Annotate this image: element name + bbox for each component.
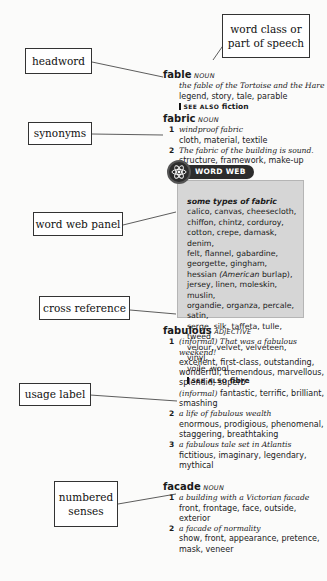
example-sentence: (informal) That was a fabulous weekend! [179, 337, 327, 358]
example-sentence: a fabulous tale set in Atlantis [179, 440, 327, 450]
callout-numbered-senses: numbered senses [54, 481, 118, 527]
example-sentence: The fabric of the building is sound. [179, 146, 327, 156]
word-web-line: calico, canvas, cheesecloth, [187, 207, 301, 217]
part-of-speech: noun [194, 72, 215, 80]
headword: fabric [163, 113, 196, 124]
synonyms: enormous, prodigious, phenomenal, stagge… [179, 420, 327, 441]
cross-reference[interactable]: see also fiction [163, 102, 327, 112]
usage-label: (informal) [179, 337, 217, 346]
entry-facade: facade noun 1 a building with a Victoria… [163, 482, 327, 555]
cross-reference-marker-icon [179, 103, 181, 110]
example-sentence: windproof fabric [179, 125, 327, 135]
synonyms: structure, framework, make-up [179, 156, 327, 166]
callout-label: usage label [25, 387, 86, 401]
see-also-link[interactable]: fiction [222, 102, 249, 111]
sense: 1 (informal) That was a fabulous weekend… [163, 337, 327, 409]
word-web-panel: some types of fabric calico, canvas, che… [177, 180, 304, 318]
entry-fable: fable noun the fable of the Tortoise and… [163, 70, 327, 112]
synonyms: fictitious, imaginary, legendary, mythic… [179, 451, 327, 472]
headword: fable [163, 69, 191, 80]
example-sentence: the fable of the Tortoise and the Hare [163, 81, 327, 91]
usage-label: (informal) [179, 389, 217, 398]
headword: fabulous [163, 325, 212, 336]
example-sentence: a facade of normality [179, 524, 327, 534]
sense-number: 3 [169, 440, 174, 450]
part-of-speech: adjective [214, 328, 251, 336]
part-of-speech: noun [203, 484, 224, 492]
word-web-term: burlap), [262, 270, 293, 279]
callout-headword: headword [25, 48, 92, 74]
sense-number: 1 [169, 493, 174, 503]
word-web-line: felt, flannel, gabardine, [187, 249, 301, 259]
word-web-line: chiffon, chintz, corduroy, [187, 218, 301, 228]
sense: 2 a life of fabulous wealth enormous, pr… [163, 409, 327, 440]
callout-label: headword [32, 54, 85, 68]
example-sentence: a life of fabulous wealth [179, 409, 327, 419]
usage-label: (American [219, 270, 259, 279]
callout-label: senses [68, 504, 103, 518]
callout-label: synonyms [34, 126, 86, 140]
synonyms: front, frontage, face, outside, exterior [179, 504, 327, 525]
sense: 2 a facade of normality show, front, app… [163, 524, 327, 555]
word-web-term: hessian [187, 270, 217, 279]
synonyms: legend, story, tale, parable [163, 92, 327, 102]
informal-synonyms: (informal) fantastic, terrific, brillian… [179, 389, 327, 410]
word-web-line: jersey, linen, moleskin, muslin, [187, 280, 301, 301]
sense-number: 2 [169, 524, 174, 534]
callout-label: word web panel [36, 217, 121, 231]
sense-number: 2 [169, 409, 174, 419]
callout-label: cross reference [43, 301, 126, 315]
callout-cross-reference: cross reference [39, 296, 130, 320]
sense: 1 windproof fabric cloth, material, text… [163, 125, 327, 146]
synonyms: show, front, appearance, pretence, mask,… [179, 534, 327, 555]
example-sentence: a building with a Victorian facade [179, 493, 327, 503]
synonyms: excellent, first-class, outstanding, won… [179, 358, 327, 389]
callout-word-web-panel: word web panel [33, 212, 123, 236]
word-web-line: hessian (American burlap), [187, 270, 301, 280]
word-web-atom-icon [167, 160, 191, 184]
sense: 3 a fabulous tale set in Atlantis fictit… [163, 440, 327, 471]
entry-fabulous: fabulous adjective 1 (informal) That was… [163, 326, 327, 471]
sense-number: 2 [169, 146, 174, 156]
headword: facade [163, 481, 201, 492]
word-web-line: georgette, gingham, [187, 259, 301, 269]
word-web-line: cotton, crepe, damask, denim, [187, 228, 301, 249]
callout-word-class: word class or part of speech [222, 14, 310, 58]
sense: 1 a building with a Victorian facade fro… [163, 493, 327, 524]
synonyms: cloth, material, textile [179, 136, 327, 146]
entry-fabric: fabric noun 1 windproof fabric cloth, ma… [163, 114, 327, 166]
sense-number: 1 [169, 125, 174, 135]
word-web-heading: some types of fabric [187, 197, 301, 207]
part-of-speech: noun [198, 116, 219, 124]
callout-usage-label: usage label [19, 383, 91, 406]
word-web-line: organdie, organza, percale, satin, [187, 301, 301, 322]
word-web-tab-label: WORD WEB [183, 165, 254, 179]
callout-synonyms: synonyms [28, 122, 92, 145]
sense-number: 1 [169, 337, 174, 347]
callout-label: word class or part of speech [223, 22, 309, 50]
see-also-label: see also [184, 103, 220, 110]
callout-label: numbered [59, 490, 113, 504]
